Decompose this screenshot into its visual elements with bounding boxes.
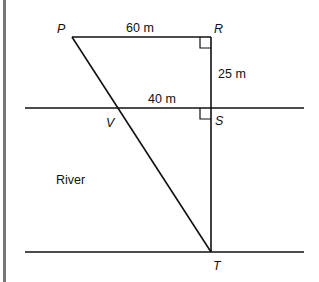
river-diagram: P R S V T 60 m 25 m 40 m River xyxy=(0,0,319,282)
right-angle-S-icon xyxy=(200,108,211,119)
right-angle-R-icon xyxy=(200,37,211,48)
label-V: V xyxy=(106,116,116,130)
label-S: S xyxy=(215,114,224,128)
label-R: R xyxy=(214,22,223,36)
label-P: P xyxy=(57,22,66,36)
measure-PR: 60 m xyxy=(126,21,154,35)
measure-RS: 25 m xyxy=(218,67,246,81)
label-T: T xyxy=(213,259,222,273)
river-label: River xyxy=(56,173,85,187)
segment-PT xyxy=(72,37,211,252)
measure-VS: 40 m xyxy=(148,92,176,106)
